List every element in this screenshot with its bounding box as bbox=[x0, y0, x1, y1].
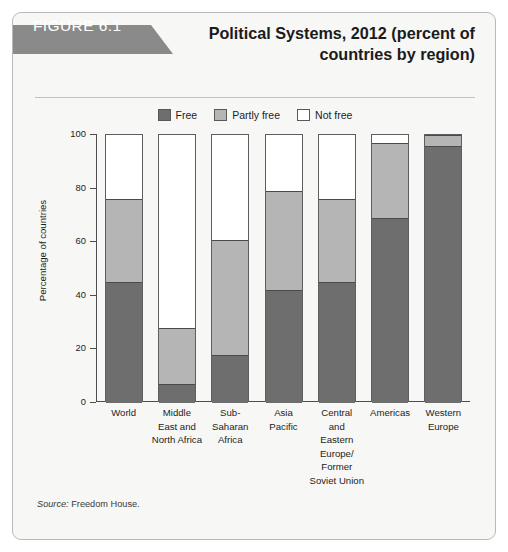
bar-segment-not-free bbox=[372, 135, 408, 143]
bar-segment-not-free bbox=[319, 135, 355, 199]
plot-area: Percentage of countries 100806040200 Wor… bbox=[13, 13, 496, 540]
y-axis-tick-mark bbox=[90, 241, 96, 242]
bar-segment-free bbox=[425, 146, 461, 403]
bar-segment-free bbox=[372, 218, 408, 403]
bar-column bbox=[371, 134, 409, 402]
bar-segment-free bbox=[212, 355, 248, 403]
bar-segment-free bbox=[319, 282, 355, 403]
category-label-line: Europe bbox=[411, 420, 476, 434]
y-axis-title: Percentage of countries bbox=[37, 156, 48, 346]
bar-column bbox=[424, 134, 462, 402]
y-axis-tick-label: 0 bbox=[54, 396, 86, 407]
bar-segment-not-free bbox=[212, 135, 248, 240]
bar-segment-free bbox=[266, 290, 302, 403]
stacked-bar bbox=[318, 134, 356, 402]
stacked-bar bbox=[211, 134, 249, 402]
y-axis-tick-label: 40 bbox=[54, 289, 86, 300]
y-axis-tick-mark bbox=[90, 348, 96, 349]
x-axis-category-labels: WorldMiddleEast andNorth AfricaSub-Sahar… bbox=[97, 406, 470, 506]
stacked-bar bbox=[371, 134, 409, 402]
category-label-line: Eastern bbox=[304, 433, 369, 447]
y-axis-tick-label: 80 bbox=[54, 182, 86, 193]
y-axis-tick-label: 60 bbox=[54, 235, 86, 246]
bar-segment-partly-free bbox=[372, 143, 408, 218]
y-axis-tick-mark bbox=[90, 188, 96, 189]
bar-segment-partly-free bbox=[106, 199, 142, 282]
bar-segment-not-free bbox=[159, 135, 195, 328]
bars-container bbox=[97, 134, 470, 402]
bar-segment-partly-free bbox=[319, 199, 355, 282]
bar-segment-not-free bbox=[106, 135, 142, 199]
figure-frame: FIGURE 6.1 Political Systems, 2012 (perc… bbox=[12, 12, 496, 540]
stacked-bar bbox=[265, 134, 303, 402]
bar-column bbox=[105, 134, 143, 402]
source-value: Freedom House. bbox=[69, 499, 140, 509]
bar-segment-partly-free bbox=[159, 328, 195, 384]
x-axis-category-label: WesternEurope bbox=[411, 406, 476, 433]
bar-segment-partly-free bbox=[425, 135, 461, 146]
stacked-bar bbox=[158, 134, 196, 402]
bar-column bbox=[211, 134, 249, 402]
y-axis-tick-mark bbox=[90, 402, 96, 403]
bar-segment-free bbox=[159, 384, 195, 403]
category-label-line: Former bbox=[304, 460, 369, 474]
figure-root: FIGURE 6.1 Political Systems, 2012 (perc… bbox=[0, 0, 508, 552]
bar-segment-free bbox=[106, 282, 142, 403]
stacked-bar bbox=[424, 134, 462, 402]
stacked-bar bbox=[105, 134, 143, 402]
category-label-line: Europe/ bbox=[304, 447, 369, 461]
category-label-line: Soviet Union bbox=[304, 474, 369, 488]
bar-segment-partly-free bbox=[212, 240, 248, 355]
bar-segment-not-free bbox=[266, 135, 302, 191]
y-axis-tick-mark bbox=[90, 295, 96, 296]
y-axis-tick-mark bbox=[90, 134, 96, 135]
category-label-line: Africa bbox=[198, 433, 263, 447]
bar-column bbox=[318, 134, 356, 402]
bar-column bbox=[158, 134, 196, 402]
bar-segment-partly-free bbox=[266, 191, 302, 290]
y-axis-tick-label: 20 bbox=[54, 342, 86, 353]
category-label-line: Western bbox=[411, 406, 476, 420]
bar-column bbox=[265, 134, 303, 402]
source-note: Source: Freedom House. bbox=[37, 499, 140, 509]
y-axis-tick-label: 100 bbox=[54, 128, 86, 139]
category-label-line: and bbox=[304, 420, 369, 434]
source-label: Source: bbox=[37, 499, 69, 509]
